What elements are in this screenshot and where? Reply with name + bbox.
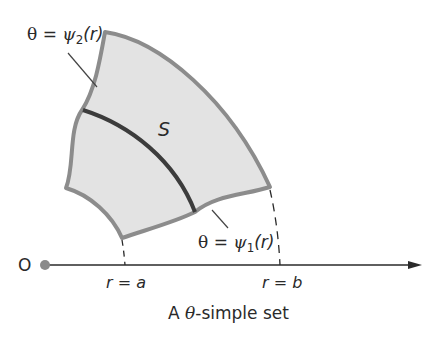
caption-prefix: A [168, 303, 185, 323]
theta-symbol: θ [27, 24, 37, 44]
origin-dot [40, 260, 50, 270]
psi-symbol: ψ [62, 24, 75, 44]
region-label: S [158, 118, 170, 140]
diagram-canvas [0, 0, 435, 340]
argument: (r) [254, 232, 274, 252]
upper-curve-label: θ = ψ2(r) [27, 24, 104, 47]
lower-curve-label: θ = ψ1(r) [198, 232, 275, 255]
theta-symbol: θ [198, 232, 208, 252]
figure-caption: A θ-simple set [168, 303, 289, 323]
theta-simple-set-figure: θ = ψ2(r) S θ = ψ1(r) O r = a r = b A θ-… [0, 0, 435, 340]
axis-arrowhead-icon [408, 261, 422, 269]
r-a-dashed-arc [122, 240, 125, 265]
upper-curve-leader-line [68, 53, 97, 87]
lower-curve-leader-line [212, 210, 228, 228]
psi-symbol: ψ [233, 232, 246, 252]
caption-suffix: -simple set [195, 303, 289, 323]
r-equals-a-label: r = a [106, 273, 146, 292]
caption-theta: θ [185, 303, 195, 323]
equals-sign: = [37, 24, 62, 44]
argument: (r) [83, 24, 103, 44]
origin-label: O [18, 255, 31, 275]
r-equals-b-label: r = b [262, 273, 302, 292]
equals-sign: = [208, 232, 233, 252]
